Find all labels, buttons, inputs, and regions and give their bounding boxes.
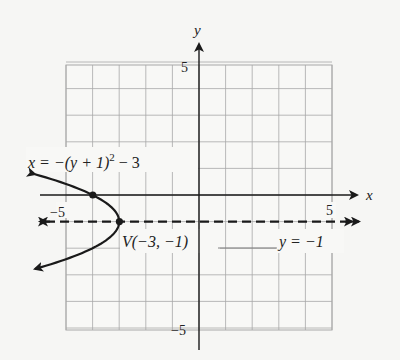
axis-of-symmetry-label: y = −1 [277, 233, 324, 251]
tick-label-y-max: 5 [181, 60, 188, 75]
tick-label-y-min: −5 [171, 323, 186, 338]
y-axis-label: y [192, 22, 201, 38]
x-axis-label: x [365, 187, 373, 203]
equation-label: x = −(y + 1)2 − 3 [27, 151, 140, 172]
tick-label-x-min: −5 [50, 205, 65, 220]
equation-main: x = −(y + 1) [27, 154, 109, 172]
tick-label-x-max: 5 [326, 203, 333, 218]
x-intercept-point [89, 191, 96, 198]
vertex-label: V(−3, −1) [122, 233, 188, 251]
vertex-point [116, 218, 123, 225]
equation-tail: − 3 [115, 154, 140, 171]
parabola-graph: x y 5 −5 −5 5 x = −(y + 1)2 − 3 V(−3, −1… [0, 0, 400, 360]
